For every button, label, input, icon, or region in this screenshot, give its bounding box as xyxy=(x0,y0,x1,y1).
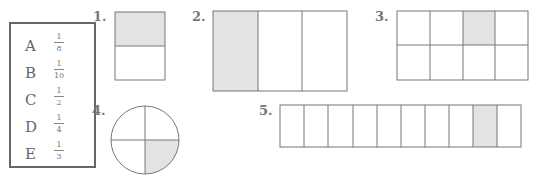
figure-3-grid xyxy=(397,11,528,80)
figure-4-circle xyxy=(111,106,179,174)
figure-5-rectangle xyxy=(280,105,521,147)
figures-canvas xyxy=(0,0,534,186)
figure-1-rectangle xyxy=(115,12,165,80)
figure-2-rectangle xyxy=(213,11,347,91)
